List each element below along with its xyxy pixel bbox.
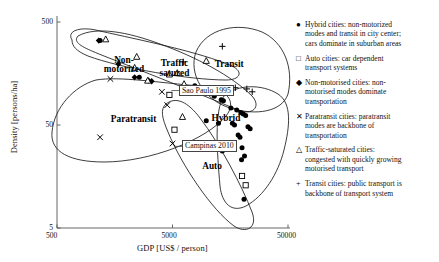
legend-text-line: Auto cities: car dependent: [305, 54, 384, 63]
y-tick-label: 5: [35, 223, 53, 232]
legend-entry: ✕Paratransit cities: paratransitmodes ar…: [296, 112, 439, 140]
figure: GDP [US$ / person] Density [persons/ha] …: [0, 0, 439, 262]
open-square-point: [167, 92, 172, 97]
x-tick-label: 50000: [277, 231, 296, 240]
legend-text-line: transportation: [305, 131, 390, 140]
cluster-label-traffic-satured: Trafficsatured: [144, 59, 204, 78]
filled-circle-point: [240, 145, 245, 150]
plus-marker: +: [296, 179, 305, 198]
filled-circle-point: [237, 135, 242, 140]
cross-marker: ✕: [296, 112, 305, 140]
callout-campinas-2010: Campinas 2010: [182, 140, 237, 152]
open-triangle-marker: △: [296, 145, 305, 173]
plus-point: [219, 43, 225, 49]
x-tick-label: 500: [46, 231, 57, 240]
filled-diamond-marker: ◆: [296, 78, 305, 106]
y-tick-label: 50: [35, 120, 53, 129]
legend-entry: △Traffic-saturated cities:congested with…: [296, 145, 439, 173]
cross-point: [159, 89, 165, 95]
legend-text-line: congested with quickly growing: [305, 155, 401, 164]
legend-text-line: Transit cities: public transport is: [305, 179, 402, 188]
legend-text-line: motorised transport: [305, 164, 401, 173]
legend-text-line: transportation: [305, 97, 386, 106]
legend-entry-text: Auto cities: car dependenttransport syst…: [305, 54, 384, 73]
open-square-point: [243, 183, 248, 188]
legend-text-line: Traffic-saturated cities:: [305, 145, 401, 154]
y-tick-label: 500: [35, 17, 53, 26]
legend-entry: ●Hybrid cities: non-motorizedmodes and t…: [296, 20, 439, 48]
legend-entry: ◆Non-motorised cities: non-motorised mod…: [296, 78, 439, 106]
legend-entry-text: Transit cities: public transport isbackb…: [305, 179, 402, 198]
legend-entry: □Auto cities: car dependenttransport sys…: [296, 54, 439, 73]
open-square-point: [239, 173, 244, 178]
filled-circle-point: [228, 106, 233, 111]
cluster-label-auto: Auto: [182, 162, 242, 171]
legend-text-line: modes and transit in city center;: [305, 29, 401, 38]
legend-entry-text: Hybrid cities: non-motorizedmodes and tr…: [305, 20, 401, 48]
x-axis-title: GDP [US$ / person]: [137, 243, 208, 253]
y-axis-title: Density [persons/ha]: [9, 62, 19, 172]
legend-text-line: Non-motorised cities: non-: [305, 78, 386, 87]
cluster-label-transit: Transit: [199, 60, 259, 69]
legend-text-line: cars dominate in suburban areas: [305, 39, 401, 48]
open-triangle-point: [179, 114, 185, 120]
legend: ●Hybrid cities: non-motorizedmodes and t…: [296, 20, 439, 204]
legend-text-line: backbone of transport system: [305, 189, 402, 198]
open-square-marker: □: [296, 54, 305, 73]
legend-entry-text: Paratransit cities: paratransitmodes are…: [305, 112, 390, 140]
filled-circle-marker: ●: [296, 20, 305, 48]
legend-text-line: modes are backbone of: [305, 121, 390, 130]
legend-text-line: Paratransit cities: paratransit: [305, 112, 390, 121]
filled-circle-point: [221, 98, 226, 103]
legend-entry-text: Non-motorised cities: non-motorised mode…: [305, 78, 386, 106]
cross-point: [97, 134, 103, 140]
filled-circle-point: [242, 197, 247, 202]
open-square-point: [172, 127, 177, 132]
legend-text-line: Hybrid cities: non-motorized: [305, 20, 401, 29]
legend-text-line: motorised modes dominate: [305, 87, 386, 96]
legend-entry-text: Traffic-saturated cities:congested with …: [305, 145, 401, 173]
open-triangle-point: [103, 36, 109, 42]
cluster-label-paratransit: Paratransit: [104, 115, 164, 124]
cluster-label-hybrid: Hybrid: [196, 114, 256, 123]
legend-entry: +Transit cities: public transport isback…: [296, 179, 439, 198]
filled-circle-point: [248, 126, 253, 131]
x-tick-label: 5000: [162, 231, 177, 240]
callout-sao-paulo-1995: Sao Paulo 1995: [179, 85, 234, 97]
legend-text-line: transport systems: [305, 63, 384, 72]
